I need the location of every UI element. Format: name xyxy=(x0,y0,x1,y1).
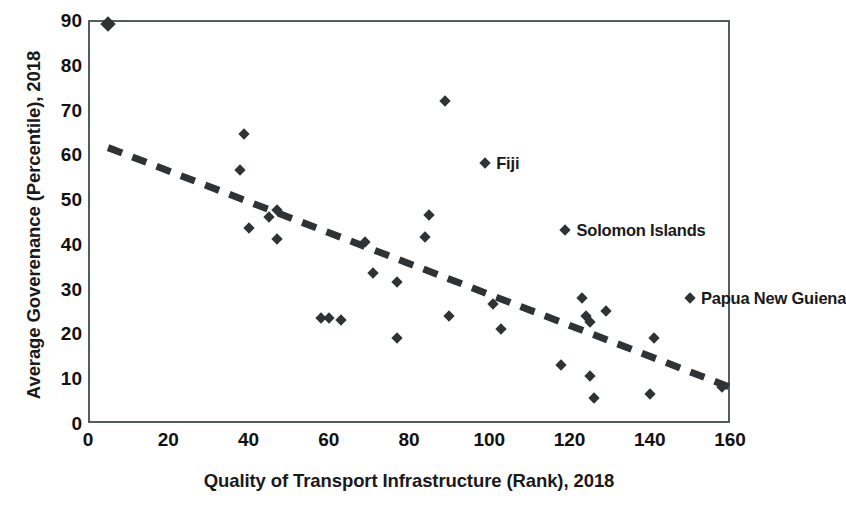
y-tick-label: 20 xyxy=(42,324,82,343)
point-annotation-label: Papua New Guiena xyxy=(701,288,846,307)
y-tick-label: 50 xyxy=(42,190,82,209)
x-tick-label: 120 xyxy=(540,430,600,449)
y-tick-label: 80 xyxy=(42,56,82,75)
x-tick-label: 60 xyxy=(299,430,359,449)
x-tick-label: 160 xyxy=(700,430,760,449)
y-tick-label: 60 xyxy=(42,145,82,164)
y-tick-label: 10 xyxy=(42,369,82,388)
x-axis-title: Quality of Transport Infrastructure (Ran… xyxy=(88,470,730,492)
y-tick-label: 30 xyxy=(42,280,82,299)
x-tick-label: 100 xyxy=(459,430,519,449)
point-annotation-label: Solomon Islands xyxy=(576,221,705,240)
x-tick-label: 0 xyxy=(58,430,118,449)
y-tick-label: 40 xyxy=(42,235,82,254)
x-tick-label: 40 xyxy=(219,430,279,449)
x-tick-label: 20 xyxy=(138,430,198,449)
y-tick-label: 90 xyxy=(42,11,82,30)
point-annotation-label: Fiji xyxy=(496,154,519,173)
x-tick-label: 80 xyxy=(379,430,439,449)
y-tick-label: 70 xyxy=(42,101,82,120)
x-tick-label: 140 xyxy=(620,430,680,449)
